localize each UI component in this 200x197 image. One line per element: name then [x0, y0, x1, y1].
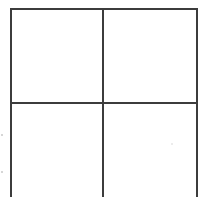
edge-artifact-mark — [1, 134, 3, 136]
two-by-two-grid — [10, 8, 198, 197]
faint-artifact-mark — [171, 143, 173, 145]
grid-cell-bottom-right — [104, 104, 196, 197]
grid-cell-bottom-left — [12, 104, 102, 197]
edge-artifact-mark — [1, 171, 3, 173]
grid-cell-top-right — [104, 10, 196, 102]
grid-line-right — [196, 8, 198, 197]
grid-cell-top-left — [12, 10, 102, 102]
